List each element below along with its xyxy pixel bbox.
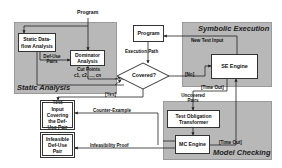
static-dataflow-analysis-box: Static Data-flow Analysis [18,33,56,52]
infeasible-def-use-pair-box: Infeasible Def-Use Pair [40,132,75,158]
program-box: Program [133,25,164,42]
uncovered-pairs-label: Uncovered Pairs [179,93,207,104]
test-input-covering-box: Test Input Covering the Def-Use Pair [40,100,75,130]
execution-path-label: Execution Path [125,49,158,54]
covered-label: Covered? [132,73,156,79]
yes-label: [Yes] [105,92,116,97]
dominator-analysis-box: Dominator Analysis [70,50,105,66]
def-use-pairs-label: Def-Use Pairs [41,54,63,65]
se-engine-box: SE Engine [211,54,258,79]
program-input-label: Program [77,10,98,16]
no-label: [No] [185,72,194,77]
new-test-input-label: New Test Input [191,38,223,43]
test-obligation-transformer-box: Test Obligation Transformer [167,110,220,128]
cut-points-sequence-label: c1, c2, ..., cn [74,73,101,78]
cut-points-label: Cut Points [77,67,100,72]
mc-time-out-label: [Time Out] [219,140,242,145]
infeasibility-proof-label: Infeasibility Proof [90,143,129,148]
mc-engine-box: MC Engine [175,135,210,154]
counter-example-label: Counter-Example [93,108,131,113]
se-time-out-label: [Time Out] [201,85,224,90]
